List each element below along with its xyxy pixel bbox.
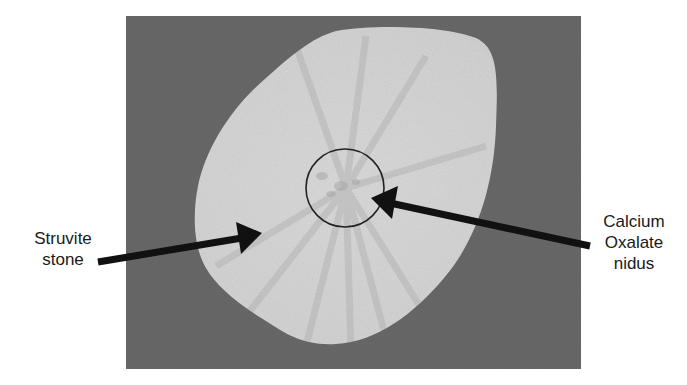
calcium-oxalate-nidus-label: Calcium Oxalate nidus	[588, 211, 680, 274]
oxalate-label-line-2: Oxalate	[588, 232, 680, 253]
struvite-label-line-1: Struvite	[18, 228, 108, 249]
stone-photograph	[126, 16, 581, 369]
stone-figure: Struvite stone Calcium Oxalate nidus	[0, 0, 687, 385]
stone-photo-graphic	[126, 16, 581, 369]
struvite-label-line-2: stone	[18, 249, 108, 270]
cropped-caption-remnant	[30, 378, 670, 385]
oxalate-label-line-3: nidus	[588, 253, 680, 274]
struvite-stone-label: Struvite stone	[18, 228, 108, 270]
oxalate-label-line-1: Calcium	[588, 211, 680, 232]
